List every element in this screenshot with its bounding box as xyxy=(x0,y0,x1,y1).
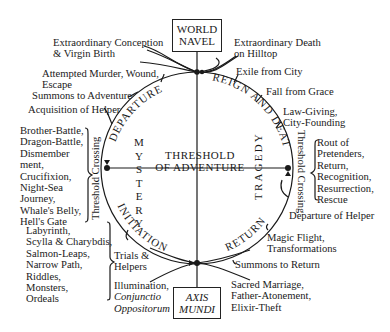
list-item: Journey, xyxy=(20,193,84,204)
stage-summons-to-adventure: Summons to Adventure xyxy=(32,90,132,101)
list-item: Salmon-Leaps, xyxy=(26,248,112,259)
stage-magic-flight: Magic Flight, Transformations xyxy=(267,232,337,255)
stage-extraordinary-death: Extraordinary Death on Hilltop xyxy=(234,37,321,60)
stage-text: Sacred Marriage, xyxy=(231,279,311,290)
list-item: Scylla & Charybdis, xyxy=(26,236,112,247)
junction-dot-right xyxy=(285,165,291,171)
list-item: Monsters, xyxy=(26,282,112,293)
list-item: Resurrection, xyxy=(317,183,374,194)
stage-text: Trials & xyxy=(114,250,149,261)
stage-text: Helpers xyxy=(114,261,149,272)
list-item: Night-Sea xyxy=(20,182,84,193)
stage-fall-from-grace: Fall from Grace xyxy=(266,86,334,97)
stage-departure-of-helper: Departure of Helper xyxy=(289,210,374,221)
stage-trials-helpers: Trials & Helpers xyxy=(114,250,149,273)
junction-dot-left xyxy=(104,165,110,171)
stage-text: Transformations xyxy=(267,243,337,254)
list-initiation-trials: Labyrinth, Scylla & Charybdis, Salmon-Le… xyxy=(26,225,112,305)
list-item: Pretenders, xyxy=(317,148,374,159)
list-item: Crucifixion, xyxy=(20,171,84,182)
world-navel-line2: NAVEL xyxy=(173,35,221,47)
list-item: Rescue xyxy=(317,194,374,205)
axis-mundi-line2: MUNDI xyxy=(174,303,220,315)
threshold-crossing-right: Threshold Crossing xyxy=(296,130,307,213)
stage-illumination: Illumination, Conjunctio Oppositorum xyxy=(114,280,170,314)
threshold-of-adventure-label: THRESHOLD OF ADVENTURE xyxy=(150,149,250,173)
stage-law-giving: Law-Giving, City-Founding xyxy=(283,106,345,129)
junction-dot-bottom xyxy=(194,260,200,266)
junction-dot-top xyxy=(194,69,200,75)
stage-text: Illumination, xyxy=(114,280,170,291)
center-label-line2: OF ADVENTURE xyxy=(150,161,250,173)
mystery-label: MYSTERY xyxy=(133,136,145,231)
stage-text: Elixir-Theft xyxy=(231,302,311,313)
stage-acquisition-of-helper: Acquisition of Helper xyxy=(28,104,120,115)
list-item: Recognition, xyxy=(317,171,374,182)
monomyth-diagram: DEPARTURE REIGN AND DEATH INITIATION RET… xyxy=(0,0,390,332)
list-item: Dragon-Battle, xyxy=(20,136,84,147)
stage-text: Extraordinary Conception xyxy=(53,37,163,48)
threshold-crossing-left: Threshold Crossing xyxy=(90,137,101,220)
stage-text: Magic Flight, xyxy=(267,232,337,243)
stage-text: & Virgin Birth xyxy=(53,48,163,59)
list-right-threshold: Rout of Pretenders, Return, Recognition,… xyxy=(317,137,374,205)
stage-sacred-marriage: Sacred Marriage, Father-Atonement, Elixi… xyxy=(231,279,311,313)
world-navel-line1: WORLD xyxy=(173,23,221,35)
stage-text: Conjunctio xyxy=(114,291,170,302)
list-item: Ordeals xyxy=(26,293,112,304)
axis-mundi-line1: AXIS xyxy=(174,291,220,303)
tragedy-label: TRAGEDY xyxy=(252,132,264,200)
stage-extraordinary-conception: Extraordinary Conception & Virgin Birth xyxy=(53,37,163,60)
stage-text: Father-Atonement, xyxy=(231,290,311,301)
list-item: ment, xyxy=(20,159,84,170)
list-item: Dismember xyxy=(20,148,84,159)
list-left-threshold: Brother-Battle, Dragon-Battle, Dismember… xyxy=(20,125,84,228)
list-item: Return, xyxy=(317,160,374,171)
world-navel-box: WORLD NAVEL xyxy=(172,19,222,52)
stage-text: Extraordinary Death xyxy=(234,37,321,48)
stage-text: Oppositorum xyxy=(114,303,170,314)
list-item: Narrow Path, xyxy=(26,259,112,270)
stage-text: City-Founding xyxy=(283,117,345,128)
list-item: Rout of xyxy=(317,137,374,148)
list-item: Labyrinth, xyxy=(26,225,112,236)
axis-mundi-box: AXIS MUNDI xyxy=(173,287,221,319)
stage-attempted-murder: Attempted Murder, Wound, Escape xyxy=(42,68,159,91)
list-item: Whale's Belly, xyxy=(20,205,84,216)
arc-label-return: RETURN xyxy=(223,214,268,253)
stage-text: Law-Giving, xyxy=(283,106,345,117)
center-label-line1: THRESHOLD xyxy=(150,149,250,161)
stage-summons-to-return: Summons to Return xyxy=(235,259,320,270)
list-item: Riddles, xyxy=(26,271,112,282)
stage-text: Attempted Murder, Wound, xyxy=(42,68,159,79)
stage-exile-from-city: Exile from City xyxy=(236,66,303,77)
stage-text: on Hilltop xyxy=(234,48,321,59)
list-item: Brother-Battle, xyxy=(20,125,84,136)
